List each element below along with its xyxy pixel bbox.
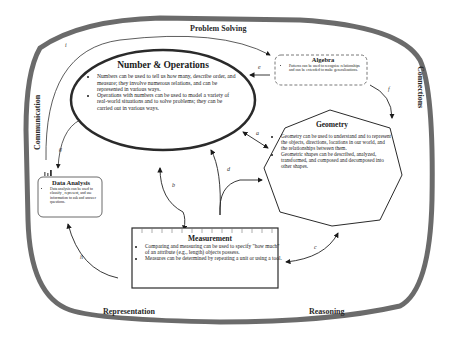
edge-d [220,180,262,215]
node-geometry: Geometry Geometry can be used to underst… [272,122,392,169]
node-data-analysis: Data Analysis Data analysis can be used … [41,181,101,205]
edge-label-i: i [65,42,67,48]
edge-label-e: e [258,64,261,70]
node-title: Measurement [136,236,284,242]
node-title: Data Analysis [41,181,101,186]
bullet: Data analysis can be used to classify , … [50,187,101,205]
edge-c [286,233,338,262]
edge-label-h: h [80,254,83,260]
edge-label-a: a [256,130,259,136]
label-communication: Communication [33,95,42,150]
edge-label-g: g [59,146,62,152]
edge-h [68,224,118,278]
edge-label-d: d [227,166,230,172]
label-problem-solving: Problem Solving [190,24,247,33]
edge-g [58,120,80,168]
bullet: Patterns can be used to recognize relati… [289,64,366,73]
label-connections: Connections [416,66,425,108]
label-reasoning: Reasoning [309,307,345,316]
label-representation: Representation [103,307,155,316]
node-algebra: Algebra Patterns can be used to recogniz… [280,58,366,73]
bullet: Geometry can be used to understand and t… [281,133,392,151]
node-measurement: Measurement Comparing and measuring can … [136,236,284,261]
bar-chart-icon [44,170,52,176]
edge-label-b: b [172,182,175,188]
bullet: Numbers can be used to tell us how many,… [97,73,238,92]
bullet: Measures can be determined by repeating … [145,255,284,261]
node-title: Algebra [280,58,366,63]
node-title: Geometry [272,122,392,128]
bullet: Comparing and measuring can be used to s… [145,243,284,255]
edge-label-c: c [314,244,317,250]
bullet: Geometric shapes can be described, analy… [281,151,392,169]
node-number-operations: Number & Operations Numbers can be used … [88,62,238,111]
edge-label-f: f [388,86,390,92]
edge-b [160,168,185,230]
node-title: Number & Operations [88,62,238,68]
edge-d-up [211,150,220,215]
bullet: Operations with numbers can be used to m… [97,92,238,111]
